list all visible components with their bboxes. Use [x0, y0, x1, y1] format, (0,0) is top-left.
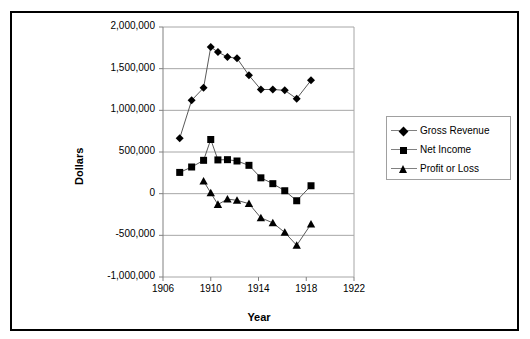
legend-item-gross-revenue[interactable]: Gross Revenue — [391, 121, 507, 140]
y-tick-label: 1,000,000 — [85, 103, 155, 114]
legend-marker-square-icon — [391, 144, 417, 156]
y-tick-label: 0 — [85, 187, 155, 198]
legend-marker-triangle-icon — [391, 163, 417, 175]
gridlines-group — [163, 27, 354, 277]
x-tick-label: 1918 — [286, 283, 326, 294]
x-axis-title: Year — [163, 311, 355, 323]
series-gross-revenue — [176, 43, 315, 142]
legend-label-gross-revenue: Gross Revenue — [420, 125, 489, 137]
legend-item-net-income[interactable]: Net Income — [391, 140, 507, 159]
x-tick-label: 1922 — [334, 283, 374, 294]
x-tick-label: 1910 — [191, 283, 231, 294]
chart-legend: Gross Revenue Net Income Profit or Loss — [386, 116, 511, 180]
y-tick-label: 500,000 — [85, 145, 155, 156]
legend-item-profit-or-loss[interactable]: Profit or Loss — [391, 159, 507, 178]
y-axis-title: Dollars — [73, 148, 85, 185]
y-tick-label: -500,000 — [85, 228, 155, 239]
legend-label-net-income: Net Income — [420, 144, 471, 156]
y-tick-label: 2,000,000 — [85, 20, 155, 31]
legend-label-profit-or-loss: Profit or Loss — [420, 163, 479, 175]
x-tick-label: 1914 — [239, 283, 279, 294]
y-tick-label: 1,500,000 — [85, 62, 155, 73]
axis-ticks-group — [159, 27, 354, 281]
x-tick-label: 1906 — [143, 283, 183, 294]
y-tick-label: -1,000,000 — [85, 270, 155, 281]
legend-marker-diamond-icon — [391, 125, 417, 137]
series-profit-or-loss — [199, 177, 315, 249]
chart-figure: 2,000,0001,500,0001,000,000500,0000-500,… — [0, 0, 530, 339]
